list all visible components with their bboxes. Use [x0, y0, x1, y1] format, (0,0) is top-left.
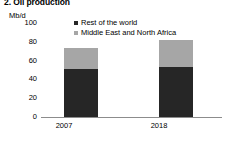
- plot-area: [41, 23, 222, 117]
- y-tick-80: 80: [3, 38, 37, 46]
- bar-segment-2018-rest-of-the-world[interactable]: [159, 67, 193, 117]
- bar-segment-2018-middle-east-and-north-africa[interactable]: [159, 40, 193, 67]
- x-tick-2007: 2007: [34, 122, 94, 130]
- chart-figure: 2. Oil production Mb/d Rest of the world…: [0, 0, 228, 142]
- y-tick-0: 0: [3, 113, 37, 121]
- y-tick-40: 40: [3, 76, 37, 84]
- y-tick-100: 100: [3, 19, 37, 27]
- x-axis-line: [41, 117, 222, 118]
- x-tick-2018: 2018: [129, 122, 189, 130]
- bar-group-2018[interactable]: [159, 40, 193, 117]
- chart-title: 2. Oil production: [4, 0, 70, 7]
- y-tick-60: 60: [3, 57, 37, 65]
- bar-segment-2007-middle-east-and-north-africa[interactable]: [64, 48, 98, 69]
- bar-segment-2007-rest-of-the-world[interactable]: [64, 69, 98, 117]
- bar-group-2007[interactable]: [64, 48, 98, 117]
- y-axis-tick-labels: 100 80 60 40 20 0: [0, 23, 37, 117]
- y-tick-20: 20: [3, 94, 37, 102]
